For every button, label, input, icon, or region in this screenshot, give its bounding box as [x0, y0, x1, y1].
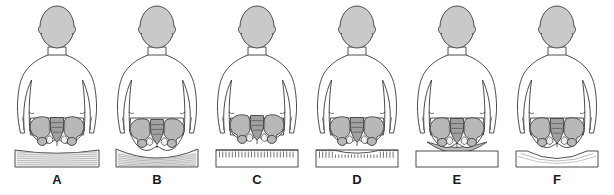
body-silhouette-a [17, 6, 96, 135]
panel-label-a: A [7, 172, 107, 187]
posture-illustration-c [207, 0, 307, 172]
posture-illustration-f [507, 0, 607, 172]
pelvis-f [530, 118, 584, 147]
panel-label-f: F [507, 172, 607, 187]
body-silhouette-e [417, 6, 496, 135]
pelvis-b [130, 119, 184, 148]
pelvis-c [230, 115, 284, 144]
seat-surface-f [516, 151, 598, 167]
body-silhouette-f [517, 6, 596, 135]
posture-illustration-a [7, 0, 107, 172]
posture-panel-a: A [7, 0, 107, 195]
posture-panel-c: C [207, 0, 307, 195]
pelvis-d [330, 117, 384, 146]
posture-illustration-d [307, 0, 407, 172]
panel-label-b: B [107, 172, 207, 187]
pelvis-e [430, 118, 484, 147]
body-silhouette-b [117, 6, 196, 135]
seat-surface-c [216, 150, 298, 167]
posture-panel-b: B [107, 0, 207, 195]
panel-label-c: C [207, 172, 307, 187]
posture-illustration-e [407, 0, 507, 172]
body-silhouette-d [317, 6, 396, 135]
posture-panel-f: F [507, 0, 607, 195]
posture-panel-d: D [307, 0, 407, 195]
posture-panel-e: E [407, 0, 507, 195]
pelvis-a [30, 117, 84, 146]
seat-surface-a [15, 150, 99, 167]
seating-posture-figure: A B [0, 0, 614, 195]
posture-illustration-b [107, 0, 207, 172]
panel-label-d: D [307, 172, 407, 187]
seat-surface-d [316, 150, 398, 167]
seat-surface-b [116, 149, 198, 167]
panel-label-e: E [407, 172, 507, 187]
